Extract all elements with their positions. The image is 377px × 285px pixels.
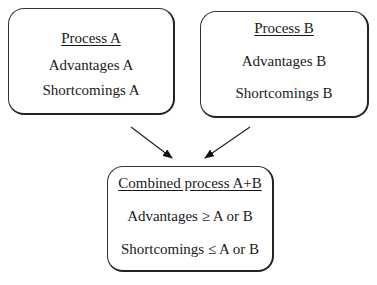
combined-shortcomings: Shortcomings ≤ A or B <box>108 241 272 258</box>
process-a-advantages: Advantages A <box>9 57 173 74</box>
process-b-title: Process B <box>201 20 367 37</box>
process-b-advantages: Advantages B <box>201 53 367 70</box>
process-b-shortcomings: Shortcomings B <box>201 85 367 102</box>
combined-process-title: Combined process A+B <box>108 175 272 192</box>
combined-advantages: Advantages ≥ A or B <box>108 208 272 225</box>
process-b-box: Process B Advantages B Shortcomings B <box>200 11 369 118</box>
arrow-b-to-combined <box>205 127 250 158</box>
combined-process-box: Combined process A+B Advantages ≥ A or B… <box>107 166 274 272</box>
process-a-title: Process A <box>9 30 173 47</box>
process-a-box: Process A Advantages A Shortcomings A <box>8 8 175 115</box>
process-a-shortcomings: Shortcomings A <box>9 82 173 99</box>
arrow-a-to-combined <box>131 127 172 158</box>
